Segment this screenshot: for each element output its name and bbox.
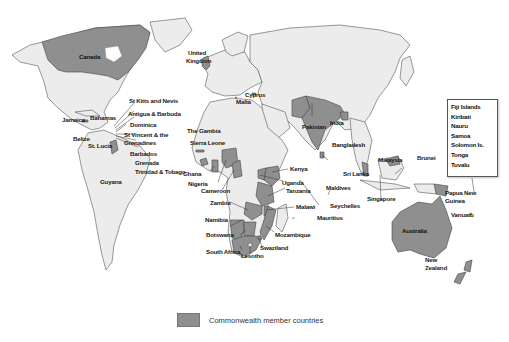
botswana	[244, 222, 256, 236]
label-india: India	[330, 119, 344, 126]
pacific-item: Kiribati	[451, 112, 494, 122]
world-map: Canada United Kingdom Cyprus Malta St Ki…	[0, 0, 509, 342]
label-brunei: Brunei	[417, 154, 436, 161]
label-australia: Australia	[402, 227, 427, 234]
label-united-kingdom-2: Kingdom	[186, 57, 212, 64]
pacific-item: Tonga	[451, 150, 494, 160]
legend-swatch	[177, 313, 200, 327]
label-nigeria: Nigeria	[188, 180, 208, 187]
label-st-vincent-1: St Vincent & the	[124, 131, 169, 138]
label-cameroon: Cameroon	[201, 187, 230, 194]
label-trinidad: Trinidad & Tobago	[135, 168, 186, 175]
label-lesotho: Lesotho	[241, 252, 264, 259]
label-sierra-leone: Sierra Leone	[190, 139, 226, 146]
label-st-vincent-2: Grenadines	[124, 139, 157, 146]
pacific-islands-box: Fiji Islands Kiribati Nauru Samoa Solomo…	[447, 99, 498, 177]
label-the-gambia: The Gambia	[187, 127, 221, 134]
label-cyprus: Cyprus	[245, 91, 266, 98]
label-zambia: Zambia	[210, 199, 231, 206]
pacific-item: Solomon Is.	[451, 140, 494, 150]
label-malta: Malta	[236, 98, 252, 105]
label-seychelles: Seychelles	[330, 202, 361, 209]
label-antigua: Antigua & Barbuda	[128, 110, 181, 117]
new-zealand	[464, 260, 472, 272]
label-mauritius: Mauritius	[317, 214, 343, 221]
label-malawi: Malawi	[296, 203, 316, 210]
label-canada: Canada	[79, 53, 101, 60]
pacific-item: Samoa	[451, 131, 494, 141]
label-guyana: Guyana	[100, 178, 122, 185]
label-dominica: Dominica	[130, 121, 157, 128]
label-papua-2: Guinea	[445, 197, 466, 204]
label-botswana: Botswana	[206, 231, 234, 238]
label-singapore: Singapore	[367, 195, 396, 202]
label-kenya: Kenya	[290, 165, 308, 172]
label-barbados: Barbados	[130, 150, 158, 157]
indonesia	[360, 180, 410, 190]
label-swaziland: Swaziland	[260, 244, 289, 251]
label-pakistan: Pakistan	[302, 123, 326, 130]
label-vanuatu: Vanuatu	[451, 211, 474, 218]
label-belize: Belize	[73, 135, 90, 142]
label-st-kitts: St Kitts and Nevis	[129, 97, 179, 104]
label-bangladesh: Bangladesh	[332, 141, 365, 148]
legend-label: Commonwealth member countries	[209, 316, 323, 325]
label-namibia: Namibia	[205, 216, 228, 223]
greenland	[150, 18, 192, 52]
label-maldives: Maldives	[326, 184, 351, 191]
label-new-zealand-1: New	[425, 256, 438, 263]
new-zealand-south	[454, 272, 466, 284]
label-mozambique: Mozambique	[275, 231, 311, 238]
pacific-item: Nauru	[451, 121, 494, 131]
label-grenada: Grenada	[135, 159, 159, 166]
legend: Commonwealth member countries	[177, 313, 323, 327]
the-gambia	[196, 150, 204, 152]
label-malaysia: Malaysia	[378, 156, 403, 163]
label-uganda: Uganda	[282, 179, 304, 186]
ghana	[212, 160, 218, 172]
label-ghana: Ghana	[183, 170, 202, 177]
label-new-zealand-2: Zealand	[425, 264, 447, 271]
pacific-item: Fiji Islands	[451, 102, 494, 112]
label-sri-lanka: Sri Lanka	[343, 170, 370, 177]
label-tanzania: Tanzania	[286, 187, 311, 194]
pacific-item: Tuvalu	[451, 160, 494, 170]
swaziland	[258, 236, 261, 239]
japan	[400, 56, 414, 86]
new-guinea-west	[414, 184, 436, 194]
label-bahamas: Bahamas	[90, 114, 117, 121]
label-jamaica: Jamaica	[62, 116, 86, 123]
label-south-africa: South Africa	[206, 248, 241, 255]
label-papua-1: Papua New	[445, 189, 477, 196]
label-st-lucia: St. Lucia	[88, 142, 113, 149]
label-united-kingdom-1: United	[188, 49, 206, 56]
